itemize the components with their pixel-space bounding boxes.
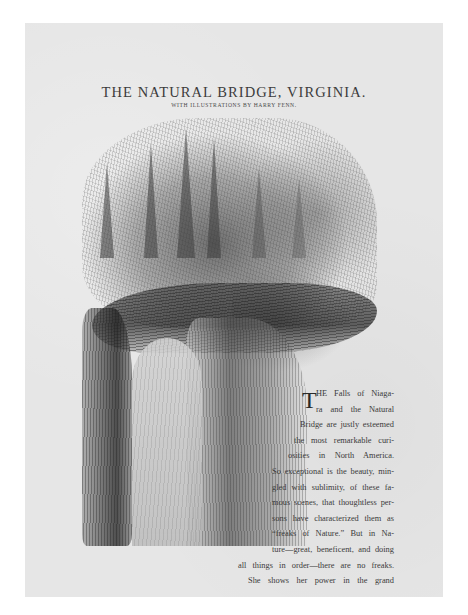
drop-cap: T <box>302 388 317 412</box>
tree-shape <box>207 138 221 258</box>
article-title: THE NATURAL BRIDGE, VIRGINIA. <box>0 84 468 101</box>
illustration-arch-opening <box>132 338 202 546</box>
illustration-left-pier <box>82 308 132 546</box>
tree-shape <box>177 128 195 258</box>
tree-shape <box>292 178 306 258</box>
article-subtitle: WITH ILLUSTRATIONS BY HARRY FENN. <box>0 102 468 108</box>
body-line: all things in order—there are no freaks. <box>238 558 394 574</box>
body-line: ture—great, beneficent, and doing <box>272 542 394 558</box>
illustration-trees <box>82 118 377 258</box>
body-line: osities in North America. <box>288 448 394 464</box>
body-line: the most remarkable curi- <box>294 433 394 449</box>
tree-shape <box>100 163 114 258</box>
tree-shape <box>144 143 158 258</box>
body-line: gled with sublimity, of these fa- <box>272 480 394 496</box>
body-line: mous scenes, that thoughtless per- <box>272 495 394 511</box>
body-line: Bridge are justly esteemed <box>300 417 394 433</box>
article-body: T HE Falls of Niaga- ra and the Natural … <box>236 386 394 589</box>
body-line: “freaks of Nature.” But in Na- <box>272 526 394 542</box>
body-line: sons have characterized them as <box>272 511 394 527</box>
body-line: ra and the Natural <box>316 402 394 418</box>
body-line: HE Falls of Niaga- <box>316 386 394 402</box>
body-line: She shows her power in the grand <box>248 573 394 589</box>
body-line: So exceptional is the beauty, min- <box>272 464 394 480</box>
tree-shape <box>252 168 266 258</box>
